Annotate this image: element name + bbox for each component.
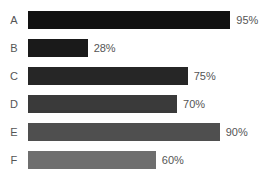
category-label: A	[0, 15, 28, 26]
value-label: 70%	[177, 99, 205, 110]
bar-row: B28%	[0, 34, 270, 62]
bar-track: 70%	[28, 95, 270, 113]
bar-fill[interactable]	[28, 11, 230, 29]
bar-fill[interactable]	[28, 151, 156, 169]
category-label: B	[0, 43, 28, 54]
value-label: 60%	[156, 155, 184, 166]
bar-fill[interactable]	[28, 67, 188, 85]
value-label: 75%	[188, 71, 216, 82]
bar-track: 28%	[28, 39, 270, 57]
value-label: 28%	[88, 43, 116, 54]
bar-row: E90%	[0, 118, 270, 146]
bar-chart: A95%B28%C75%D70%E90%F60%	[0, 0, 270, 177]
category-label: D	[0, 99, 28, 110]
bar-rows: A95%B28%C75%D70%E90%F60%	[0, 6, 270, 171]
bar-row: C75%	[0, 62, 270, 90]
bar-fill[interactable]	[28, 39, 88, 57]
value-label: 95%	[230, 15, 258, 26]
value-label: 90%	[220, 127, 248, 138]
bar-row: F60%	[0, 146, 270, 174]
category-label: F	[0, 155, 28, 166]
bar-track: 90%	[28, 123, 270, 141]
category-label: E	[0, 127, 28, 138]
bar-fill[interactable]	[28, 123, 220, 141]
bar-track: 75%	[28, 67, 270, 85]
category-label: C	[0, 71, 28, 82]
bar-fill[interactable]	[28, 95, 177, 113]
bar-track: 95%	[28, 11, 270, 29]
bar-row: D70%	[0, 90, 270, 118]
bar-track: 60%	[28, 151, 270, 169]
bar-row: A95%	[0, 6, 270, 34]
